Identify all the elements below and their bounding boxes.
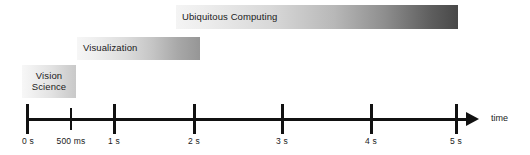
axis-tick-label-500ms: 500 ms bbox=[56, 136, 85, 146]
axis-tick-0s bbox=[26, 104, 29, 134]
era-bar-vision-science-label: Vision Science bbox=[22, 71, 76, 92]
era-bar-vision-science-label-line2: Science bbox=[25, 82, 73, 93]
timeline-arrow-icon bbox=[466, 112, 479, 126]
era-bar-vision-science: Vision Science bbox=[22, 65, 76, 98]
axis-tick-label-4s: 4 s bbox=[365, 136, 377, 146]
era-bar-vision-science-label-line1: Vision bbox=[25, 71, 73, 82]
axis-title-time: time bbox=[491, 113, 508, 123]
axis-tick-label-1s: 1 s bbox=[108, 136, 120, 146]
axis-tick-label-2s: 2 s bbox=[188, 136, 200, 146]
timeline-figure: Ubiquitous Computing Visualization Visio… bbox=[0, 0, 530, 155]
axis-tick-5s bbox=[455, 104, 458, 134]
timeline-axis-line bbox=[26, 118, 470, 121]
era-bar-ubiquitous-computing-label: Ubiquitous Computing bbox=[176, 12, 277, 23]
era-bar-visualization: Visualization bbox=[77, 37, 200, 60]
axis-tick-label-5s: 5 s bbox=[450, 136, 462, 146]
axis-tick-1s bbox=[113, 104, 116, 134]
axis-tick-3s bbox=[281, 104, 284, 134]
axis-tick-2s bbox=[193, 104, 196, 134]
axis-tick-label-3s: 3 s bbox=[276, 136, 288, 146]
axis-tick-label-0s: 0 s bbox=[22, 136, 34, 146]
axis-tick-500ms bbox=[70, 108, 72, 130]
era-bar-visualization-label: Visualization bbox=[77, 43, 137, 54]
axis-tick-4s bbox=[370, 104, 373, 134]
era-bar-ubiquitous-computing: Ubiquitous Computing bbox=[176, 5, 458, 29]
